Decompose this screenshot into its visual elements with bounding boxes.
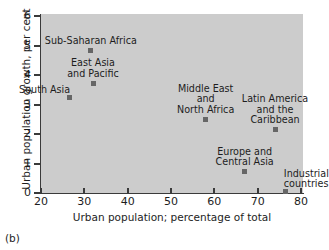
x-tick-label-40: 40 [115, 196, 141, 207]
data-point-label: Latin America and the Caribbean [242, 94, 308, 125]
data-point-marker [283, 189, 288, 194]
x-tick-20 [40, 188, 42, 194]
x-tick-label-80: 80 [288, 196, 314, 207]
x-tick-label-30: 30 [71, 196, 97, 207]
data-point-marker [88, 48, 93, 53]
data-point-marker [242, 169, 247, 174]
x-tick-70 [257, 188, 259, 194]
x-axis-title: Urban population; percentage of total [41, 211, 303, 223]
y-tick-3 [34, 104, 40, 106]
x-tick-60 [213, 188, 215, 194]
x-axis-line [40, 193, 304, 194]
data-point-label: East Asia and Pacific [67, 58, 119, 79]
x-tick-label-50: 50 [158, 196, 184, 207]
y-axis-line [40, 14, 41, 194]
data-point-label: Industrial countries [284, 169, 329, 190]
data-point-marker [91, 81, 96, 86]
x-tick-label-20: 20 [28, 196, 54, 207]
figure-caption: (b) [5, 232, 20, 244]
x-tick-40 [127, 188, 129, 194]
y-tick-2 [34, 133, 40, 135]
data-point-label: Middle East and North Africa [177, 84, 234, 115]
data-point-marker [273, 127, 278, 132]
y-tick-5 [34, 45, 40, 47]
x-tick-label-70: 70 [245, 196, 271, 207]
y-tick-1 [34, 163, 40, 165]
x-tick-30 [83, 188, 85, 194]
data-point-marker [203, 117, 208, 122]
data-point-label: Sub-Saharan Africa [45, 36, 137, 46]
data-point-marker [67, 95, 72, 100]
y-axis-title: Urban population growth, per cent [20, 4, 32, 194]
y-tick-4 [34, 74, 40, 76]
data-point-label: Europe and Central Asia [216, 147, 274, 168]
x-tick-50 [170, 188, 172, 194]
x-tick-label-60: 60 [201, 196, 227, 207]
y-tick-6 [34, 15, 40, 17]
